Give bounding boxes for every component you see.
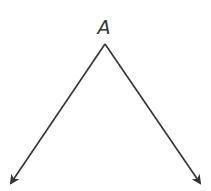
left-ray [11,44,105,183]
vertex-label: A [96,16,111,38]
right-ray [105,44,200,183]
angle-diagram: A [0,0,211,191]
